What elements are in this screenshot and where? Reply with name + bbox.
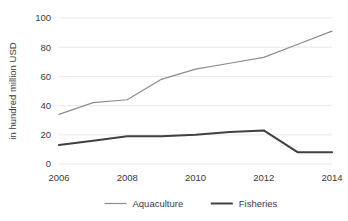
y-tick-label: 40 [40,100,51,111]
line-chart: 020406080100 20062008201020122014 in hun… [0,0,348,221]
legend-item-fisheries[interactable]: Fisheries [211,198,278,209]
y-axis-ticks: 020406080100 [35,12,51,169]
legend-label: Aquaculture [133,198,184,209]
x-tick-label: 2010 [185,172,206,183]
x-axis-ticks: 20062008201020122014 [48,172,342,183]
chart-canvas: 020406080100 20062008201020122014 in hun… [0,0,348,221]
series-line-fisheries [59,130,332,152]
x-tick-label: 2006 [48,172,69,183]
x-tick-label: 2014 [321,172,342,183]
series-lines [59,31,332,152]
series-line-aquaculture [59,31,332,114]
chart-legend: AquacultureFisheries [105,198,278,209]
y-tick-label: 100 [35,12,51,23]
x-tick-label: 2008 [117,172,138,183]
y-tick-label: 60 [40,71,51,82]
y-axis-title: in hundred million USD [7,42,18,139]
legend-label: Fisheries [239,198,278,209]
legend-item-aquaculture[interactable]: Aquaculture [105,198,184,209]
y-axis-title-group: in hundred million USD [7,42,18,139]
gridlines [59,18,332,164]
y-tick-label: 80 [40,42,51,53]
x-tick-label: 2012 [253,172,274,183]
y-tick-label: 0 [46,158,51,169]
y-tick-label: 20 [40,129,51,140]
